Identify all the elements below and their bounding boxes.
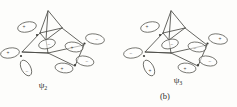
sign-bl-outer: +	[7, 50, 10, 56]
sign-tl-outer: +	[146, 24, 149, 30]
ring-upper-left	[40, 28, 62, 40]
lobe-upper-top-left	[140, 20, 161, 34]
ring-lower-left-right	[145, 52, 171, 53]
sign-bl-inner: +	[149, 68, 152, 74]
bridge-triangle-right	[163, 11, 185, 33]
psi-subscript-left: 2	[44, 85, 47, 91]
orbital-bottom-right-psi3: + −	[177, 54, 217, 74]
atom-node-bottom-left	[143, 55, 145, 57]
orbital-top-right-psi3: − +	[187, 32, 228, 53]
orbital-bottom-right-psi2: + −	[54, 54, 94, 74]
sign-tr-outer: −	[96, 36, 99, 42]
orbital-top-right-psi2: + −	[64, 32, 105, 53]
sign-br-outer: −	[209, 58, 212, 64]
atom-node-bottom-right	[74, 64, 76, 66]
orbital-top-left-psi3: + −	[140, 20, 180, 50]
sign-bl-outer: −	[130, 50, 133, 56]
orbital-label-psi3: ψ3	[174, 75, 183, 86]
sign-tl-inner: −	[171, 41, 174, 47]
sign-tr-inner: −	[194, 45, 197, 51]
sign-tr-outer: +	[219, 36, 222, 42]
atom-node-top-left	[36, 34, 38, 36]
atom-node-bottom-right	[197, 64, 199, 66]
bridge-triangle-left	[40, 11, 62, 33]
figure-caption-b: (b)	[160, 91, 170, 101]
sign-tl-inner: −	[48, 41, 51, 47]
sign-tl-outer: +	[23, 24, 26, 30]
orbital-diagram-psi3: + − − + − + + − ψ3 (b)	[118, 0, 237, 107]
atom-node-bottom-left	[20, 55, 22, 57]
atom-node-top-left	[159, 34, 161, 36]
orbital-bottom-left-psi2: + −	[0, 46, 34, 77]
ring-lower-left-left	[22, 52, 48, 53]
orbital-top-left-psi2: + −	[17, 20, 57, 50]
orbital-bottom-left-psi3: − +	[123, 46, 157, 77]
lobe-upper-top-left	[17, 20, 38, 34]
atom-node-top-right	[206, 42, 208, 44]
molecular-skeleton-right	[145, 11, 207, 66]
sign-br-inner: +	[184, 66, 187, 72]
figure-root: + − + − + − + − ψ2	[0, 0, 237, 107]
lobe-outer-bottom-left	[0, 46, 20, 59]
molecular-skeleton-left	[22, 11, 84, 66]
ring-upper-right	[163, 28, 185, 40]
orbital-label-psi2: ψ2	[39, 80, 48, 91]
sign-br-outer: −	[86, 58, 89, 64]
atom-node-top-right	[83, 42, 85, 44]
lobe-outer-bottom-left	[123, 46, 143, 59]
orbital-diagram-psi2: + − + − + − + − ψ2	[0, 0, 118, 107]
sign-br-inner: +	[61, 66, 64, 72]
sign-tr-inner: +	[71, 45, 74, 51]
sign-bl-inner: −	[26, 68, 29, 74]
psi-subscript-right: 3	[179, 80, 182, 86]
